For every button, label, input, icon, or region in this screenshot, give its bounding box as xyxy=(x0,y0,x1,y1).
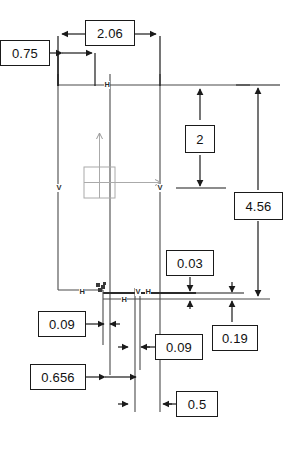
dimension-box-0-03[interactable]: 0.03 xyxy=(166,250,214,276)
dimension-0-19-geometry xyxy=(196,282,244,322)
cluster-dot-1 xyxy=(96,283,100,287)
cad-dimension-drawing: 0.75 2.06 2 4.56 0.03 0.19 0.09 0.09 0.6… xyxy=(0,0,298,451)
cluster-dot-3 xyxy=(98,288,102,292)
constraint-horizontal-low-mid[interactable]: H xyxy=(121,296,127,304)
dimension-4-56-geometry xyxy=(236,85,280,296)
dimension-box-0-5[interactable]: 0.5 xyxy=(176,391,218,417)
constraint-vertical-low-a[interactable]: V xyxy=(135,288,141,296)
dimension-box-0-656[interactable]: 0.656 xyxy=(30,364,86,390)
constraint-vertical-left[interactable]: V xyxy=(56,184,62,192)
dimension-box-0-19[interactable]: 0.19 xyxy=(212,325,258,351)
dimension-box-2[interactable]: 2 xyxy=(185,125,215,153)
constraint-horizontal-low-left[interactable]: H xyxy=(79,288,85,296)
dimension-box-2-06[interactable]: 2.06 xyxy=(85,20,135,46)
dimension-box-0-09-b[interactable]: 0.09 xyxy=(155,334,203,360)
constraint-vertical-mid[interactable]: V xyxy=(157,184,163,192)
profile-geometry xyxy=(58,74,270,412)
constraint-horizontal-low-b[interactable]: H xyxy=(145,288,151,296)
dimension-box-0-75[interactable]: 0.75 xyxy=(0,40,50,66)
sketch-origin-marker xyxy=(84,133,161,198)
dimension-box-0-09-a[interactable]: 0.09 xyxy=(38,311,86,337)
dimension-box-4-56[interactable]: 4.56 xyxy=(234,192,283,220)
constraint-horizontal-top[interactable]: H xyxy=(104,81,110,89)
cluster-dot-4 xyxy=(103,282,106,285)
dimension-0-75-geometry xyxy=(50,53,95,86)
